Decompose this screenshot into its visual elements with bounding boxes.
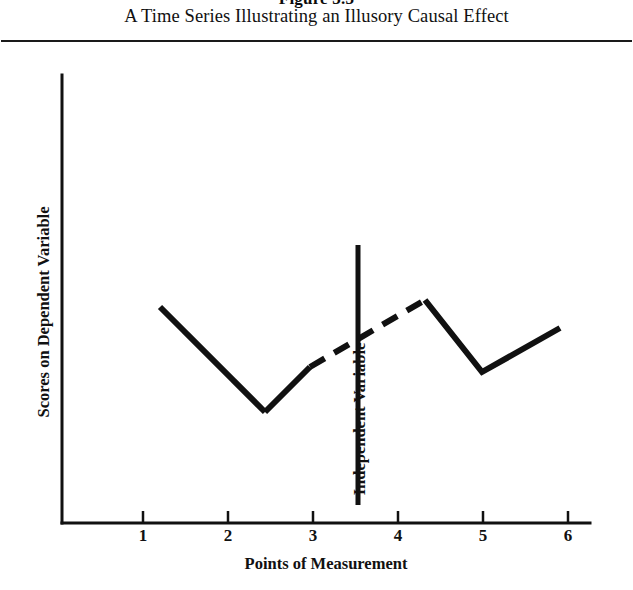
y-axis-title: Scores on Dependent Variable <box>34 182 54 442</box>
intervention-annotation-label: Independent Variable <box>350 304 370 534</box>
time-series-chart <box>0 46 633 590</box>
x-tick-label-3: 3 <box>293 526 333 546</box>
x-tick-label-6: 6 <box>548 526 588 546</box>
header-divider <box>1 40 632 42</box>
chart-plot-area: Scores on Dependent Variable Points of M… <box>0 46 633 590</box>
figure-caption: A Time Series Illustrating an Illusory C… <box>0 6 633 27</box>
x-tick-label-1: 1 <box>123 526 163 546</box>
series-segment-solid-pre <box>160 307 265 412</box>
x-tick-label-4: 4 <box>378 526 418 546</box>
x-tick-label-5: 5 <box>463 526 503 546</box>
series-segment-solid-rise <box>265 367 310 412</box>
x-axis-title: Points of Measurement <box>62 554 590 574</box>
x-tick-label-2: 2 <box>208 526 248 546</box>
series-segment-solid-post <box>425 300 560 372</box>
